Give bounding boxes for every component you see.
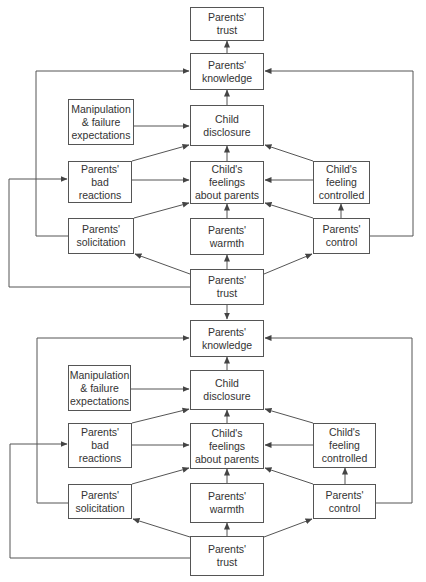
node-label: Child's feeling controlled [322, 426, 368, 465]
node-label: Parents' knowledge [202, 326, 252, 352]
node-parents-solicitation: Parents' solicitation [68, 218, 134, 254]
arrow-solicitation-to-feelings [134, 203, 189, 218]
node-label: Parents' control [322, 223, 360, 249]
node-label: Parents' warmth [208, 490, 246, 516]
node-parents-trust-bottom-2: Parents' trust [190, 536, 264, 576]
node-child-disclosure: Child disclosure [190, 105, 264, 146]
node-label: Parents' knowledge [202, 59, 252, 85]
node-parents-control: Parents' control [313, 218, 370, 254]
arrow-solicitation-to-knowledge [36, 71, 189, 236]
node-parents-trust-top: Parents' trust [190, 7, 264, 41]
arrow-control-to-feelings-2 [265, 468, 313, 484]
node-label: Parents' solicitation [76, 223, 125, 249]
node-childs-feeling-controlled-2: Child's feeling controlled [313, 423, 376, 468]
arrow-trust-to-solicitation-2 [133, 519, 190, 537]
node-parents-knowledge: Parents' knowledge [190, 53, 264, 90]
node-parents-bad-reactions-2: Parents' bad reactions [68, 423, 132, 468]
arrow-control-to-knowledge [265, 71, 413, 236]
node-label: Child disclosure [203, 377, 250, 403]
node-manipulation-failure-expectations: Manipulation & failure expectations [68, 99, 134, 145]
node-parents-trust-middle: Parents' trust [190, 269, 264, 305]
node-parents-bad-reactions: Parents' bad reactions [68, 161, 132, 203]
node-parents-warmth-2: Parents' warmth [190, 483, 264, 523]
arrow-solicitation-to-feelings-2 [132, 468, 189, 484]
node-childs-feelings-about-parents-2: Child's feelings about parents [190, 423, 264, 469]
node-label: Manipulation & failure expectations [71, 103, 131, 142]
arrow-control-to-feelings [265, 203, 313, 218]
node-label: Child's feelings about parents [195, 427, 259, 466]
arrow-trust-to-control [264, 254, 312, 274]
arrow-trust-to-control-2 [264, 519, 312, 537]
arrow-badreactions-to-disclosure-2 [132, 409, 189, 423]
arrow-controlled-to-disclosure [265, 145, 313, 161]
node-label: Child's feeling controlled [319, 163, 365, 202]
node-parents-knowledge-2: Parents' knowledge [190, 320, 264, 357]
node-label: Child disclosure [203, 113, 250, 139]
arrow-badreactions-to-disclosure [132, 145, 189, 161]
node-label: Manipulation & failure expectations [70, 369, 130, 408]
arrow-trust-to-solicitation [135, 254, 190, 274]
node-manipulation-failure-expectations-2: Manipulation & failure expectations [68, 365, 131, 411]
node-label: Parents' trust [208, 274, 246, 300]
arrow-controlled-to-disclosure-2 [265, 409, 313, 423]
node-childs-feeling-controlled: Child's feeling controlled [313, 161, 370, 204]
node-label: Parents' warmth [208, 224, 246, 250]
node-child-disclosure-2: Child disclosure [190, 370, 264, 410]
node-label: Parents' trust [208, 11, 246, 37]
node-label: Parents' bad reactions [79, 426, 122, 465]
node-label: Child's feelings about parents [195, 163, 259, 202]
node-label: Parents' trust [208, 543, 246, 569]
node-label: Parents' solicitation [75, 489, 124, 515]
node-label: Parents' bad reactions [79, 163, 122, 202]
node-parents-warmth: Parents' warmth [190, 218, 264, 255]
arrow-solicitation-to-knowledge-2 [37, 338, 189, 503]
node-parents-control-2: Parents' control [313, 484, 376, 519]
node-label: Parents' control [325, 489, 363, 515]
node-childs-feelings-about-parents: Child's feelings about parents [190, 161, 264, 204]
arrow-control-to-knowledge-2 [265, 338, 412, 503]
node-parents-solicitation-2: Parents' solicitation [68, 484, 132, 519]
